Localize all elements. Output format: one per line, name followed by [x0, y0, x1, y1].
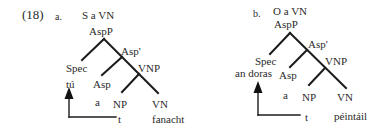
- branch-aspp-spec-a: [82, 39, 104, 60]
- node-spec: Spec: [66, 62, 87, 74]
- node-asp-bar: Asp': [308, 38, 328, 50]
- node-asp-bar: Asp': [121, 45, 141, 57]
- tree-caption: S a VN: [82, 9, 114, 21]
- branch-vnp-np-b: [309, 68, 325, 85]
- branch-aspp-spec-b: [270, 33, 290, 54]
- trace: t: [118, 113, 121, 125]
- spec-filler: an doras: [235, 67, 272, 79]
- node-asp: Asp: [279, 69, 297, 81]
- branch-aspbar-asp-a: [102, 57, 122, 75]
- up-arrow-icon: [254, 81, 263, 93]
- asp-word: a: [283, 89, 288, 101]
- node-spec: Spec: [255, 55, 276, 67]
- node-vnp: VNP: [325, 55, 347, 67]
- tree-a-branches: [65, 39, 159, 117]
- spec-filler: tú: [66, 78, 75, 90]
- tree-caption: O a VN: [273, 5, 307, 17]
- node-np: NP: [302, 91, 316, 103]
- branch-aspbar-asp-b: [290, 50, 307, 67]
- branch-vnp-np-a: [122, 74, 139, 92]
- tree-marker: b.: [253, 8, 261, 20]
- node-vnp: VNP: [138, 62, 160, 74]
- asp-word: a: [95, 96, 100, 108]
- node-aspp: AspP: [89, 25, 113, 37]
- example-number: (18): [22, 8, 44, 22]
- vn-word: péintáil: [334, 110, 367, 122]
- node-np: NP: [113, 98, 127, 110]
- tree-marker: a.: [55, 11, 62, 23]
- node-vn: VN: [337, 91, 353, 103]
- node-aspp: AspP: [274, 18, 298, 30]
- node-vn: VN: [152, 98, 168, 110]
- vn-word: fanacht: [152, 113, 184, 125]
- trace: t: [305, 111, 308, 123]
- node-asp: Asp: [93, 78, 111, 90]
